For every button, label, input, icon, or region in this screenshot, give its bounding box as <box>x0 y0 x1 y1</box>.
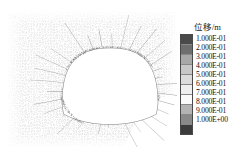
legend-color-ramp <box>180 34 193 135</box>
legend: 位移/m 1.000E-012.000E-013.000E-014.000E-0… <box>180 22 246 135</box>
legend-label-list: 1.000E-012.000E-013.000E-014.000E-015.00… <box>196 34 228 124</box>
legend-swatch <box>181 44 192 54</box>
legend-title: 位移/m <box>194 22 221 32</box>
displacement-contour-figure: 位移/m 1.000E-012.000E-013.000E-014.000E-0… <box>0 0 248 158</box>
plot-area <box>6 10 178 148</box>
legend-label: 5.000E-01 <box>196 70 228 79</box>
legend-body: 1.000E-012.000E-013.000E-014.000E-015.00… <box>180 34 228 135</box>
legend-swatch <box>181 94 192 104</box>
legend-label: 8.000E-01 <box>196 97 228 106</box>
legend-swatch <box>181 114 192 124</box>
legend-swatch <box>181 124 192 134</box>
tunnel-mesh-canvas <box>6 10 178 148</box>
legend-label: 6.000E-01 <box>196 79 228 88</box>
legend-swatch <box>181 35 192 44</box>
legend-label: 4.000E-01 <box>196 61 228 70</box>
legend-label: 7.000E-01 <box>196 88 228 97</box>
legend-swatch <box>181 54 192 64</box>
legend-label: 2.000E-01 <box>196 43 228 52</box>
legend-swatch <box>181 64 192 74</box>
legend-swatch <box>181 104 192 114</box>
legend-label: 9.000E-01 <box>196 106 228 115</box>
legend-label: 3.000E-01 <box>196 52 228 61</box>
legend-label: 1.000E+00 <box>196 115 228 124</box>
legend-swatch <box>181 84 192 94</box>
legend-swatch <box>181 74 192 84</box>
legend-label: 1.000E-01 <box>196 34 228 43</box>
